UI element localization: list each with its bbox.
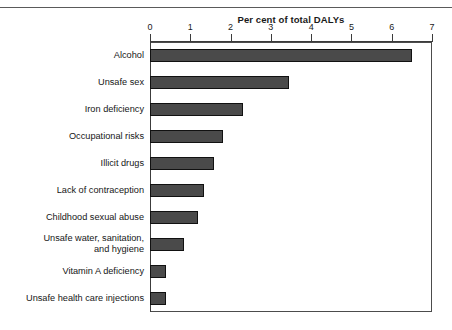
category-label: Iron deficiency [85, 104, 144, 115]
x-tick-label-3: 3 [261, 22, 281, 32]
x-tick-4 [311, 34, 312, 41]
bar[interactable] [150, 238, 184, 251]
x-tick-1 [190, 34, 191, 41]
x-tick-3 [271, 34, 272, 41]
bar[interactable] [150, 76, 289, 89]
x-tick-label-4: 4 [301, 22, 321, 32]
bar-row [150, 258, 432, 285]
bar-row [150, 123, 432, 150]
category-label: Unsafe water, sanitation, and hygiene [43, 233, 144, 255]
x-tick-label-2: 2 [221, 22, 241, 32]
figure: Per cent of total DALYs 01234567 Alcohol… [0, 0, 452, 330]
bar[interactable] [150, 130, 223, 143]
bar-row [150, 69, 432, 96]
x-tick-label-7: 7 [422, 22, 442, 32]
category-label: Occupational risks [69, 131, 144, 142]
bar[interactable] [150, 184, 204, 197]
x-tick-2 [231, 34, 232, 41]
x-tick-label-5: 5 [341, 22, 361, 32]
x-tick-label-6: 6 [382, 22, 402, 32]
header-divider [0, 7, 452, 8]
bar-row [150, 42, 432, 69]
bar-row [150, 96, 432, 123]
category-labels: AlcoholUnsafe sexIron deficiencyOccupati… [0, 42, 150, 312]
category-label: Unsafe sex [98, 77, 144, 88]
category-label: Illicit drugs [101, 158, 144, 169]
category-label: Lack of contraception [57, 185, 144, 196]
bar[interactable] [150, 292, 166, 305]
x-tick-5 [351, 34, 352, 41]
bar-row [150, 285, 432, 312]
x-tick-label-1: 1 [180, 22, 200, 32]
bars-group [150, 42, 432, 312]
bar-row [150, 150, 432, 177]
bar-row [150, 204, 432, 231]
bar-row [150, 231, 432, 258]
category-label: Unsafe health care injections [26, 293, 144, 304]
bar-row [150, 177, 432, 204]
category-label: Alcohol [114, 50, 144, 61]
x-tick-7 [432, 34, 433, 41]
x-tick-label-0: 0 [140, 22, 160, 32]
category-label: Childhood sexual abuse [46, 212, 144, 223]
category-label: Vitamin A deficiency [62, 266, 144, 277]
bar[interactable] [150, 211, 198, 224]
bar[interactable] [150, 49, 412, 62]
x-tick-0 [150, 34, 151, 41]
bar[interactable] [150, 265, 166, 278]
bar[interactable] [150, 103, 243, 116]
x-tick-6 [392, 34, 393, 41]
bar[interactable] [150, 157, 214, 170]
